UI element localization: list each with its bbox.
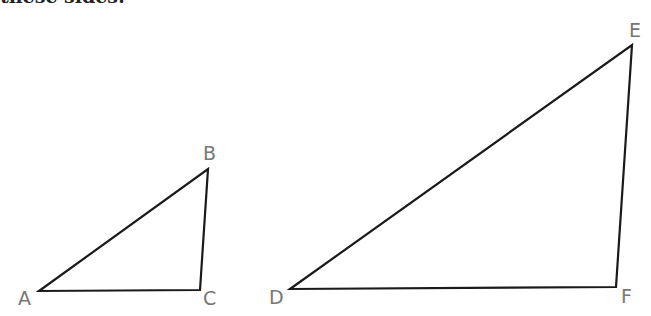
- vertex-label-a: A: [18, 287, 31, 309]
- vertex-label-e: E: [629, 19, 641, 41]
- triangle-def: D E F: [269, 19, 641, 308]
- triangle-abc: A B C: [18, 142, 216, 309]
- similar-triangles-diagram: A B C D E F: [0, 0, 651, 316]
- vertex-label-b: B: [203, 142, 216, 164]
- vertex-label-d: D: [269, 286, 284, 308]
- vertex-label-c: C: [203, 287, 216, 309]
- triangle-def-outline: [290, 45, 632, 289]
- vertex-label-f: F: [621, 285, 632, 307]
- triangle-abc-outline: [39, 169, 208, 291]
